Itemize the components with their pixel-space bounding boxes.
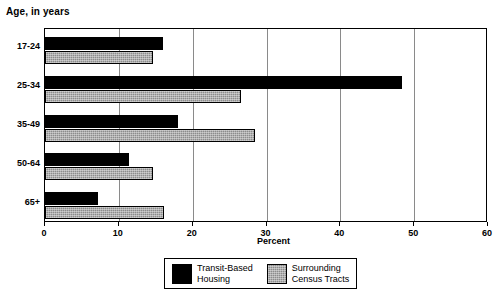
y-axis-tick-label: 35-49 — [0, 119, 40, 129]
bar — [45, 51, 153, 64]
bar — [45, 206, 164, 219]
gridline — [340, 29, 341, 221]
y-axis-tick-label: 50-64 — [0, 158, 40, 168]
gridline — [414, 29, 415, 221]
x-axis-tick-mark — [192, 222, 193, 226]
x-axis-title: Percent — [0, 236, 503, 246]
legend-label-transit-based-housing: Transit-Based Housing — [197, 263, 253, 284]
x-axis-tick-mark — [44, 222, 45, 226]
legend-item-transit-based-housing: Transit-Based Housing — [172, 263, 253, 284]
bar — [45, 37, 163, 50]
legend-swatch-black-icon — [172, 264, 192, 284]
legend-label-surrounding-census-tracts: Surrounding Census Tracts — [292, 263, 350, 284]
bar — [45, 76, 402, 89]
bar — [45, 153, 129, 166]
y-axis-tick-label: 65+ — [0, 197, 40, 207]
gridline — [267, 29, 268, 221]
bar — [45, 129, 255, 142]
bar — [45, 90, 241, 103]
y-axis-labels: 17-2425-3435-4950-6465+ — [0, 28, 40, 222]
bar — [45, 115, 178, 128]
y-axis-tick-label: 25-34 — [0, 80, 40, 90]
legend-item-surrounding-census-tracts: Surrounding Census Tracts — [267, 263, 350, 284]
x-axis-tick-mark — [118, 222, 119, 226]
y-axis-tick-label: 17-24 — [0, 41, 40, 51]
gridline — [193, 29, 194, 221]
x-axis-tick-mark — [339, 222, 340, 226]
bar — [45, 167, 153, 180]
x-axis-tick-mark — [487, 222, 488, 226]
legend-swatch-gray-icon — [267, 264, 287, 284]
plot-area — [44, 28, 487, 222]
chart-legend: Transit-Based Housing Surrounding Census… — [164, 258, 357, 289]
x-axis-tick-mark — [266, 222, 267, 226]
chart-title: Age, in years — [6, 6, 70, 17]
bar — [45, 192, 98, 205]
x-axis-tick-mark — [413, 222, 414, 226]
